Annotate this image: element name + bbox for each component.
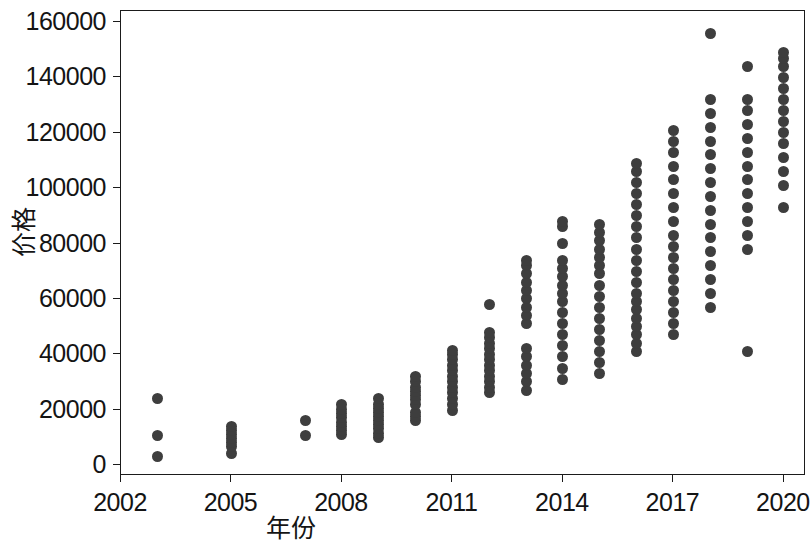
data-point [742,147,753,158]
data-point [631,266,642,277]
data-point [484,327,495,338]
data-point [778,105,789,116]
y-tick-label: 140000 [26,62,106,91]
data-point [668,230,679,241]
data-point [300,430,311,441]
data-points-layer [121,11,804,474]
data-point [521,255,532,266]
data-point [778,116,789,127]
y-tick-mark [113,21,120,22]
data-point [152,430,163,441]
data-point [742,94,753,105]
data-point [778,72,789,83]
data-point [705,122,716,133]
data-point [705,136,716,147]
data-point [742,188,753,199]
data-point [668,216,679,227]
data-point [705,260,716,271]
data-point [668,147,679,158]
data-point [594,302,605,313]
data-point [742,133,753,144]
x-tick-mark [230,475,231,482]
data-point [631,221,642,232]
plot-area [120,10,805,475]
y-tick-mark [113,187,120,188]
y-tick-label: 20000 [39,394,106,423]
data-point [742,202,753,213]
y-tick-mark [113,76,120,77]
data-point [594,335,605,346]
data-point [447,345,458,356]
data-point [594,280,605,291]
data-point [631,210,642,221]
data-point [705,302,716,313]
data-point [742,105,753,116]
data-point [778,94,789,105]
data-point [631,277,642,288]
x-tick-mark [562,475,563,482]
data-point [668,188,679,199]
data-point [705,28,716,39]
data-point [594,313,605,324]
data-point [668,318,679,329]
data-point [742,61,753,72]
data-point [484,299,495,310]
data-point [594,357,605,368]
x-tick-mark [120,475,121,482]
x-tick-mark [341,475,342,482]
x-tick-mark [451,475,452,482]
y-tick-label: 0 [93,449,106,478]
y-tick-label: 120000 [26,117,106,146]
data-point [705,274,716,285]
y-tick-label: 40000 [39,339,106,368]
data-point [705,149,716,160]
data-point [705,191,716,202]
data-point [631,232,642,243]
x-tick-mark [783,475,784,482]
data-point [668,307,679,318]
data-point [778,166,789,177]
data-point [631,158,642,169]
data-point [226,421,237,432]
data-point [410,371,421,382]
data-point [705,288,716,299]
data-point [557,340,568,351]
data-point [778,83,789,94]
data-point [705,205,716,216]
data-point [557,374,568,385]
y-tick-mark [113,132,120,133]
data-point [705,219,716,230]
data-point [668,136,679,147]
data-point [300,415,311,426]
y-tick-label: 160000 [26,7,106,36]
data-point [152,451,163,462]
data-point [631,188,642,199]
data-point [705,232,716,243]
data-point [668,161,679,172]
data-point [631,244,642,255]
data-point [705,163,716,174]
data-point [668,241,679,252]
data-point [557,307,568,318]
data-point [742,174,753,185]
data-point [705,94,716,105]
data-point [705,177,716,188]
data-point [152,393,163,404]
data-point [778,202,789,213]
x-tick-label: 2017 [646,488,700,517]
data-point [557,329,568,340]
data-point [668,329,679,340]
data-point [668,125,679,136]
data-point [742,119,753,130]
data-point [631,288,642,299]
data-point [557,363,568,374]
data-point [594,346,605,357]
y-tick-label: 80000 [39,228,106,257]
y-axis-label: 价格 [4,192,40,272]
data-point [742,161,753,172]
data-point [705,108,716,119]
data-point [778,180,789,191]
data-point [778,152,789,163]
y-tick-mark [113,243,120,244]
